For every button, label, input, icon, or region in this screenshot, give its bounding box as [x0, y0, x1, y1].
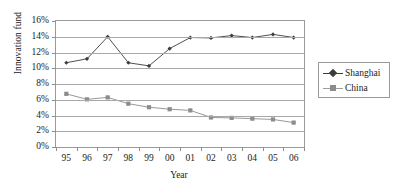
- data-point-china-05: [271, 117, 275, 121]
- x-axis-tick: [159, 147, 160, 151]
- x-axis-tick: [201, 147, 202, 151]
- x-axis-tick: [97, 147, 98, 151]
- x-axis-tick-label: 99: [144, 154, 154, 164]
- data-point-china-98: [126, 102, 130, 106]
- y-axis-tick-label: 8%: [36, 79, 49, 89]
- y-axis-tick-label: 6%: [36, 95, 49, 105]
- data-point-china-00: [168, 107, 172, 111]
- data-point-china-01: [188, 108, 192, 112]
- legend-label-china: China: [343, 84, 368, 94]
- y-axis-tick-label: 10%: [32, 64, 49, 74]
- gridline: [56, 53, 304, 54]
- y-axis-tick: [52, 131, 56, 132]
- data-point-china-95: [64, 92, 68, 96]
- data-point-china-99: [147, 105, 151, 109]
- legend-marker-diamond-icon: [323, 69, 343, 79]
- legend-item-china: China: [323, 81, 389, 96]
- data-point-china-06: [292, 120, 296, 124]
- y-axis-tick: [52, 84, 56, 85]
- y-axis-tick-label: 4%: [36, 111, 49, 121]
- plot-area: 0%2%4%6%8%10%12%14%16%959697989900010203…: [55, 20, 305, 148]
- x-axis-tick-label: 98: [124, 154, 134, 164]
- x-axis-tick: [180, 147, 181, 151]
- x-axis-tick-label: 97: [103, 154, 113, 164]
- series-line-shanghai: [66, 34, 293, 65]
- y-axis-tick: [52, 100, 56, 101]
- data-point-shanghai-95: [64, 61, 68, 65]
- y-axis-tick: [52, 21, 56, 22]
- y-axis-tick: [52, 116, 56, 117]
- x-axis-tick: [118, 147, 119, 151]
- y-axis-tick: [52, 53, 56, 54]
- y-axis-tick-label: 2%: [36, 127, 49, 137]
- x-axis-tick-label: 02: [206, 154, 216, 164]
- y-axis-tick: [52, 37, 56, 38]
- gridline: [56, 131, 304, 132]
- x-axis-tick: [263, 147, 264, 151]
- x-axis-tick: [304, 147, 305, 151]
- x-axis-tick: [77, 147, 78, 151]
- gridline: [56, 68, 304, 69]
- legend-item-shanghai: Shanghai: [323, 66, 389, 81]
- x-axis-tick-label: 95: [62, 154, 72, 164]
- y-axis-tick-label: 14%: [32, 32, 49, 42]
- x-axis-tick-label: 06: [289, 154, 299, 164]
- x-axis-tick: [56, 147, 57, 151]
- x-axis-tick: [139, 147, 140, 151]
- legend-marker-square-icon: [323, 84, 343, 94]
- innovation-fund-line-chart: Innovation fund 0%2%4%6%8%10%12%14%16%95…: [0, 0, 396, 192]
- y-axis-tick: [52, 68, 56, 69]
- y-axis-title: Innovation fund: [13, 0, 23, 108]
- y-axis-tick-label: 0%: [36, 142, 49, 152]
- data-point-china-04: [250, 117, 254, 121]
- x-axis-tick-label: 03: [227, 154, 237, 164]
- gridline: [56, 37, 304, 38]
- x-axis-tick-label: 96: [82, 154, 92, 164]
- legend-label-shanghai: Shanghai: [343, 69, 380, 79]
- gridline: [56, 84, 304, 85]
- x-axis-tick-label: 01: [186, 154, 196, 164]
- x-axis-title: Year: [55, 170, 303, 180]
- x-axis-tick: [221, 147, 222, 151]
- gridline: [56, 100, 304, 101]
- x-axis-tick: [283, 147, 284, 151]
- y-axis-tick-label: 12%: [32, 48, 49, 58]
- x-axis-tick-label: 05: [268, 154, 278, 164]
- chart-legend: Shanghai China: [318, 62, 390, 98]
- x-axis-tick-label: 04: [248, 154, 258, 164]
- y-axis-tick-label: 16%: [32, 16, 49, 26]
- gridline: [56, 116, 304, 117]
- series-line-china: [66, 94, 293, 123]
- x-axis-tick-label: 00: [165, 154, 175, 164]
- x-axis-tick: [242, 147, 243, 151]
